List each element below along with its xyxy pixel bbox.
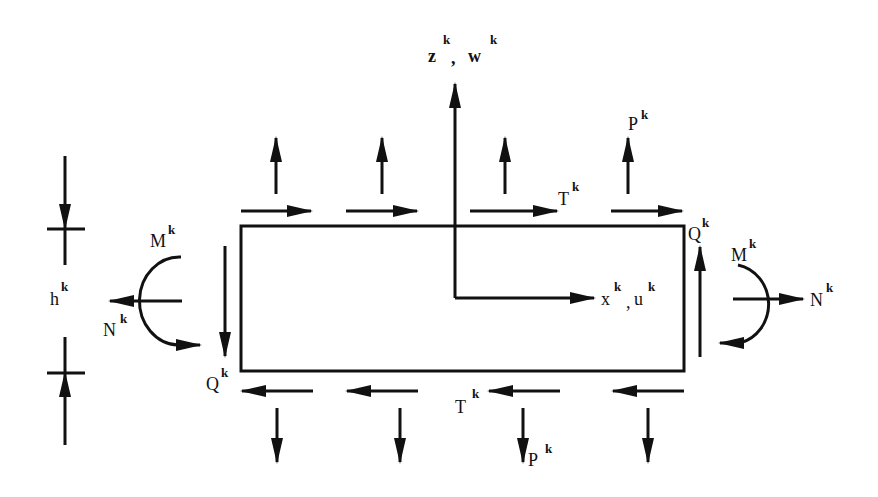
q-right-sup: k (702, 215, 710, 230)
m-right-sup: k (749, 236, 757, 251)
w-disp-label: w (468, 46, 481, 66)
n-right-sup: k (826, 280, 834, 295)
m-left-sup: k (168, 222, 176, 237)
x-axis-label: x (601, 289, 610, 309)
z-comma: , (451, 48, 456, 68)
n-left-label: N (103, 320, 116, 340)
u-disp-sup: k (648, 279, 656, 294)
h-thickness-label: h (50, 289, 59, 309)
h-thickness-sup: k (61, 279, 69, 294)
t-bottom-label: T (455, 397, 466, 417)
m-left-label: M (150, 231, 166, 251)
z-axis-sup: k (443, 32, 451, 47)
n-right-label: N (810, 290, 823, 310)
u-disp-label: u (634, 289, 643, 309)
q-right-label: Q (688, 224, 701, 244)
z-axis-label: z (428, 46, 436, 66)
t-top-label: T (558, 189, 569, 209)
p-top-sup: k (641, 107, 649, 122)
p-top-label: P (628, 114, 638, 134)
q-left-label: Q (206, 374, 219, 394)
layer-diagram: z k , w k x k , u k P k T k Q k M k N k … (0, 0, 878, 497)
p-bottom-sup: k (545, 441, 553, 456)
t-top-sup: k (572, 179, 580, 194)
p-bottom-label: P (528, 450, 538, 470)
q-left-sup: k (221, 365, 229, 380)
w-disp-sup: k (490, 32, 498, 47)
t-bottom-sup: k (472, 386, 480, 401)
x-axis-sup: k (614, 279, 622, 294)
n-left-sup: k (120, 311, 128, 326)
x-comma: , (626, 292, 631, 312)
m-right-arc (720, 265, 769, 343)
m-right-label: M (731, 245, 747, 265)
